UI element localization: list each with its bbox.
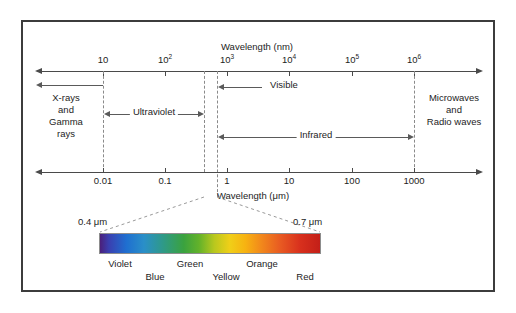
band-label-ultraviolet: Ultraviolet (130, 106, 178, 117)
color-label-green: Green (177, 258, 203, 269)
top-tick-mark (165, 72, 166, 76)
color-label-blue: Blue (145, 271, 164, 282)
top-axis-arrow-right (476, 68, 483, 74)
electromagnetic-spectrum-figure: Wavelength (nm) 10 102 103 104 105 106 X… (0, 0, 516, 313)
top-axis-line (42, 71, 476, 72)
visible-spectrum-colorbar (99, 233, 321, 254)
bottom-axis-arrow-left (35, 169, 42, 175)
span-infrared: Infrared (218, 134, 414, 141)
bottom-tick-mark (289, 168, 290, 172)
span-xray-gamma (36, 82, 103, 89)
top-tick-mark (227, 72, 228, 76)
top-axis-title: Wavelength (nm) (221, 41, 293, 52)
band-label-microwaves-line3: Radio waves (427, 116, 481, 127)
color-label-red: Red (296, 271, 313, 282)
top-tick-mark (352, 72, 353, 76)
band-label-xrays-line4: rays (57, 128, 75, 139)
top-tick-label-10e4: 104 (282, 54, 296, 65)
bottom-tick-label-1: 1 (224, 175, 229, 186)
arrow-head-right-icon (408, 134, 414, 140)
bottom-tick-label-10: 10 (284, 175, 295, 186)
bottom-tick-mark (103, 168, 104, 172)
top-tick-label-10e6: 106 (407, 54, 421, 65)
top-tick-mark (289, 72, 290, 76)
top-tick-label-10e5: 105 (345, 54, 359, 65)
bottom-tick-label-0-1: 0.1 (158, 175, 171, 186)
bottom-tick-mark (352, 168, 353, 172)
span-visible: Visible (218, 84, 262, 91)
top-tick-label-10e2: 102 (158, 54, 172, 65)
top-tick-label-10: 10 (98, 54, 109, 65)
bottom-axis-arrow-right (476, 169, 483, 175)
divider-uv-xray (103, 71, 104, 172)
bottom-tick-mark (165, 168, 166, 172)
band-label-xrays-line1: X-rays (52, 92, 79, 103)
divider-uv-visible (204, 71, 205, 172)
visible-right-bound-label: 0.7 μm (293, 216, 322, 227)
bottom-tick-label-0-01: 0.01 (94, 175, 113, 186)
visible-left-bound-label: 0.4 μm (78, 216, 107, 227)
color-label-violet: Violet (108, 258, 132, 269)
divider-infrared-microwave (414, 71, 415, 172)
color-label-yellow: Yellow (212, 271, 239, 282)
span-bar (42, 85, 103, 86)
band-label-xrays-line2: and (58, 104, 74, 115)
bottom-tick-label-1000: 1000 (403, 175, 424, 186)
bottom-tick-label-100: 100 (344, 175, 360, 186)
color-label-orange: Orange (246, 258, 278, 269)
band-label-visible: Visible (266, 79, 301, 90)
band-label-infrared: Infrared (297, 129, 336, 140)
top-axis-arrow-left (35, 68, 42, 74)
bottom-axis-title: Wavelength (μm) (217, 190, 289, 201)
band-label-microwaves-line1: Microwaves (429, 92, 479, 103)
band-label-microwaves-line2: and (446, 104, 462, 115)
span-bar (224, 87, 262, 88)
span-ultraviolet: Ultraviolet (104, 111, 204, 118)
bottom-tick-mark (227, 168, 228, 172)
top-tick-label-10e3: 103 (220, 54, 234, 65)
band-label-xrays-line3: Gamma (49, 116, 83, 127)
arrow-head-right-icon (198, 111, 204, 117)
bottom-tick-mark (414, 168, 415, 172)
bottom-axis-line (42, 172, 476, 173)
